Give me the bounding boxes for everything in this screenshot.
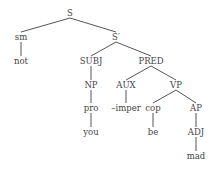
node-mad: mad — [187, 152, 206, 161]
node-ap: AP — [190, 104, 202, 113]
node-vp: VP — [170, 81, 182, 90]
node-pro: pro — [84, 104, 99, 113]
node-imper: –imper — [111, 104, 141, 113]
node-s: S — [67, 9, 73, 18]
node-be: be — [148, 128, 158, 137]
node-aux: AUX — [116, 81, 135, 90]
node-sm: sm — [15, 33, 27, 42]
node-adj: ADJ — [188, 128, 204, 137]
node-not: not — [14, 57, 28, 66]
node-pred: PRED — [138, 57, 163, 66]
edge-S-sm — [21, 18, 70, 32]
edge-PRED-VP — [151, 66, 176, 80]
syntax-tree-diagram: S sm not S′ SUBJ NP pro you PRED AUX –im… — [0, 0, 214, 174]
edge-S-Sbar — [70, 18, 116, 32]
node-cop: cop — [145, 104, 160, 113]
edge-VP-AP — [176, 90, 196, 103]
node-np: NP — [84, 81, 97, 90]
edge-Sbar-SUBJ — [91, 42, 116, 56]
edge-VP-cop — [153, 90, 176, 103]
edge-Sbar-PRED — [116, 42, 151, 56]
node-you: you — [83, 128, 98, 137]
edge-PRED-AUX — [126, 66, 151, 80]
node-subj: SUBJ — [80, 57, 103, 66]
node-s-bar: S′ — [112, 33, 120, 42]
